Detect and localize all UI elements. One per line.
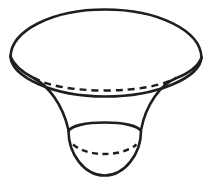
funnel-solid-figure <box>0 0 213 190</box>
